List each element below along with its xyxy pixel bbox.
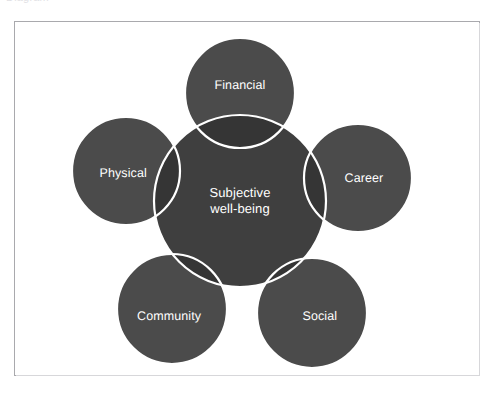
diagram-canvas: Diagram Subjectivewell-beingFinancialPhy… <box>0 0 494 396</box>
wellbeing-venn-diagram <box>0 0 494 396</box>
